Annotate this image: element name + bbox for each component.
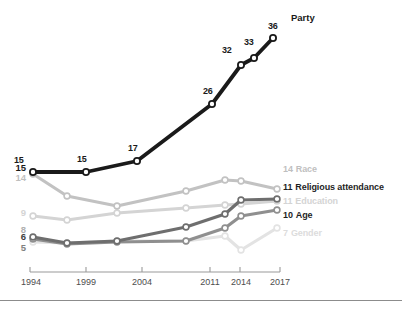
legend-name-religious-attendance: Religious attendance <box>295 182 384 192</box>
series-gender <box>30 225 280 253</box>
party-value-2004: 17 <box>128 143 138 153</box>
x-axis-label-1994: 1994 <box>12 277 50 287</box>
party-value-2014: 32 <box>222 45 232 55</box>
chart-container: 15 15 17 26 32 33 36 Party 15 14 9 8 6 5… <box>0 0 402 314</box>
party-value-2011: 26 <box>203 86 213 96</box>
party-line <box>33 38 273 172</box>
series-party <box>30 35 276 175</box>
party-series-label: Party <box>291 12 315 23</box>
legend-name-age: Age <box>296 210 313 220</box>
legend-item-gender: 7Gender <box>283 228 322 238</box>
x-axis <box>30 267 280 272</box>
start-value-race: 14 <box>8 172 26 183</box>
line-chart-plot <box>0 0 402 314</box>
legend-value-age: 10 <box>283 210 293 220</box>
start-value-age: 6 <box>8 231 26 242</box>
x-axis-label-2014: 2014 <box>222 277 260 287</box>
start-value-education: 9 <box>8 207 26 218</box>
x-axis-label-2017: 2017 <box>261 277 299 287</box>
legend-item-religious-attendance: 11Religious attendance <box>283 182 384 192</box>
x-axis-label-2004: 2004 <box>123 277 161 287</box>
legend-item-age: 10Age <box>283 210 313 220</box>
x-axis-label-1999: 1999 <box>67 277 105 287</box>
party-value-2015: 33 <box>244 37 254 47</box>
legend-value-religious-attendance: 11 <box>283 182 292 192</box>
gender-markers <box>30 225 280 253</box>
legend-item-education: 11Education <box>283 196 338 206</box>
start-value-gender: 5 <box>8 242 26 253</box>
party-value-2017: 36 <box>268 21 278 31</box>
legend-name-gender: Gender <box>291 228 322 238</box>
legend-value-race: 14 <box>283 164 293 174</box>
legend-value-education: 11 <box>283 196 292 206</box>
legend-name-education: Education <box>295 196 338 206</box>
party-value-1999: 15 <box>77 154 87 164</box>
legend-name-race: Race <box>296 164 317 174</box>
legend-value-gender: 7 <box>283 228 288 238</box>
legend-item-race: 14Race <box>283 164 317 174</box>
party-markers <box>30 35 276 175</box>
footer-divider <box>0 300 402 301</box>
